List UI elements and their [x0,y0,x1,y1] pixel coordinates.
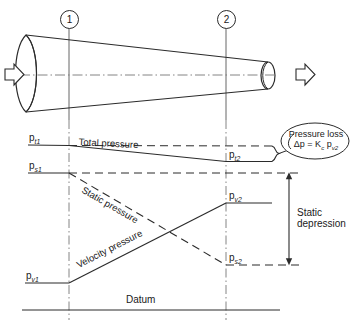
station-marker-2: 2 [217,10,236,29]
label-ps1-subscript: s1 [35,166,42,173]
label-pv2: pv2 [229,191,242,203]
label-pv1-subscript: v1 [32,276,39,283]
callout-formula-delta: Δp = [294,139,315,149]
label-ps2-subscript: s2 [235,258,242,265]
label-ps1: ps1 [29,161,42,173]
label-pt2-subscript: t2 [235,155,241,162]
callout-formula-p: p [324,139,332,149]
diagram-root: 1 2 pt1 ps1 pv1 pt2 pv2 ps2 Total pressu… [0,0,351,323]
label-pt1: pt1 [29,133,40,145]
label-static-depression: Static depression [297,208,346,229]
diagram-canvas [0,0,351,323]
flow-arrow-inlet [5,64,24,85]
label-pt1-subscript: t1 [35,138,41,145]
label-pv1: pv1 [26,271,39,283]
label-pt2: pt2 [229,150,240,162]
callout-pressure-loss-title: Pressure loss [284,130,348,139]
callout-formula-p-subscript: v2 [332,144,338,151]
label-static-depression-line1: Static [297,208,346,219]
label-datum: Datum [126,295,155,306]
label-pv2-subscript: v2 [235,196,242,203]
callout-pressure-loss-formula: Δp = Kc pv2 [284,140,348,151]
callout-pressure-loss: Pressure loss Δp = Kc pv2 [284,130,348,152]
duct-body [16,35,277,112]
station-label-2: 2 [224,14,230,25]
velocity-pressure-line [25,203,272,283]
label-static-depression-line2: depression [297,219,346,230]
label-ps2: ps2 [229,253,242,265]
station-marker-1: 1 [60,10,79,29]
station-label-1: 1 [67,14,73,25]
flow-arrow-outlet [296,64,315,85]
